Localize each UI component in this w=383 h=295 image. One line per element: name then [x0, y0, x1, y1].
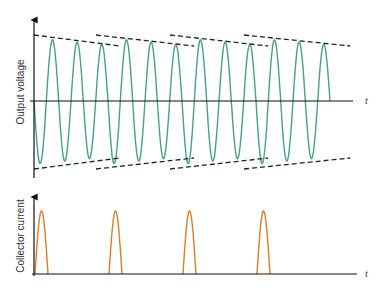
lower-x-label: t [365, 268, 368, 279]
lower-plot: Collector current t [15, 197, 368, 279]
lower-y-label: Collector current [15, 199, 26, 273]
upper-plot: Output voltage t [15, 20, 368, 178]
oscillator-waveform-diagram: Output voltage t Collector current t [0, 0, 383, 295]
envelope-lines [34, 35, 350, 169]
collector-current-pulses [35, 211, 270, 274]
upper-x-label: t [365, 95, 368, 106]
upper-y-label: Output voltage [15, 59, 26, 124]
